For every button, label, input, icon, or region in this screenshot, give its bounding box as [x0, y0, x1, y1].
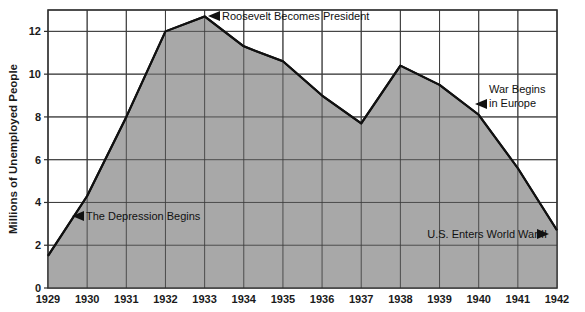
y-tick-label: 6 — [35, 154, 41, 166]
x-tick-label: 1934 — [232, 293, 257, 305]
annotation-depression: The Depression Begins — [72, 210, 201, 222]
x-tick-label: 1932 — [153, 293, 177, 305]
x-tick-label: 1939 — [427, 293, 451, 305]
x-tick-label: 1942 — [545, 293, 569, 305]
x-tick-label: 1931 — [114, 293, 138, 305]
x-tick-label: 1941 — [506, 293, 530, 305]
x-tick-label: 1929 — [36, 293, 60, 305]
annotation-roosevelt: Roosevelt Becomes President — [208, 10, 369, 22]
annotation-label: War Begins — [489, 83, 546, 95]
y-tick-label: 12 — [29, 25, 41, 37]
x-tick-label: 1937 — [349, 293, 373, 305]
annotation-label: The Depression Begins — [86, 210, 201, 222]
chart-page: 024681012 192919301931193219331934193519… — [0, 0, 585, 312]
annotation-label: Roosevelt Becomes President — [222, 10, 369, 22]
x-tick-label: 1936 — [310, 293, 334, 305]
y-tick-label: 2 — [35, 239, 41, 251]
x-tick-label: 1933 — [192, 293, 216, 305]
y-tick-label: 4 — [35, 196, 42, 208]
y-tick-label: 10 — [29, 68, 41, 80]
annotation-label: U.S. Enters World War II — [427, 228, 547, 240]
unemployment-area-chart: 024681012 192919301931193219331934193519… — [0, 0, 585, 312]
x-tick-label: 1940 — [466, 293, 490, 305]
y-tick-label: 8 — [35, 111, 41, 123]
x-tick-label: 1938 — [388, 293, 412, 305]
x-tick-label: 1930 — [75, 293, 99, 305]
annotation-us-enters-war: U.S. Enters World War II — [427, 228, 549, 240]
x-tick-label: 1935 — [271, 293, 295, 305]
y-axis-title: Millions of Unemployed People — [7, 64, 19, 234]
annotation-label: in Europe — [489, 97, 536, 109]
